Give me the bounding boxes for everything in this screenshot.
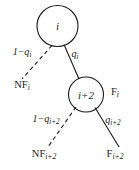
node-root-label: i [56,21,59,32]
leaf-f-i2-sub: i+2 [112,152,123,161]
edge-label-child-to-nf: 1−qi+2 [32,114,59,126]
edge-label-child-to-f-sub: i+2 [110,119,120,127]
edge-label-root-to-child: qi [72,49,79,61]
leaf-f-i2: Fi+2 [107,149,124,161]
edge-label-root-to-nf-sub: i [29,51,31,59]
leaf-nf-i2: NFi+2 [32,149,56,161]
leaf-nf-i-main: NF [14,79,27,90]
edge-label-child-to-f: qi+2 [105,115,120,127]
node-child-side-sub: i [117,90,119,99]
leaf-nf-i2-sub: i+2 [45,152,56,161]
probability-tree-diagram: i i+2 Fi 1−qi qi 1−qi+2 qi+2 NFi NFi+2 F… [0,0,139,170]
leaf-nf-i2-main: NF [32,148,45,159]
edge-label-root-to-nf-main: 1−q [13,46,30,57]
edge-label-child-to-nf-main: 1−q [32,113,49,124]
edge-label-child-to-nf-sub: i+2 [49,118,59,126]
leaf-nf-i-sub: i [28,83,30,92]
leaf-nf-i: NFi [14,80,30,92]
edge-label-root-to-child-sub: i [77,53,79,61]
edge-label-root-to-nf: 1−qi [13,47,32,59]
node-child-side-label: Fi [111,87,119,99]
node-child-label: i+2 [78,89,94,100]
